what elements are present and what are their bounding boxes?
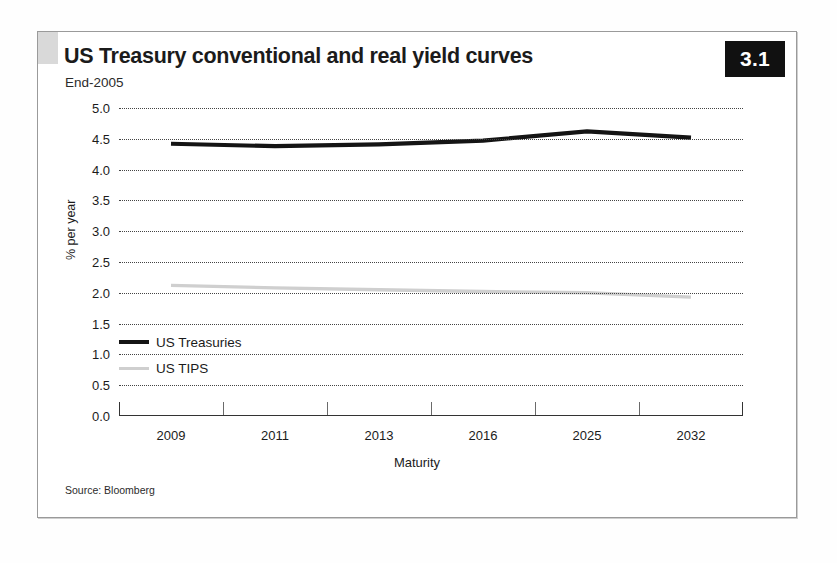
x-axis-tick [431, 402, 432, 416]
x-axis-tick [639, 402, 640, 416]
y-axis-tick-label: 0.5 [92, 378, 110, 393]
x-axis-tick-label: 2009 [157, 428, 186, 443]
x-axis-line [119, 415, 743, 416]
x-axis-tick-label: 2013 [365, 428, 394, 443]
y-axis-tick-label: 3.0 [92, 224, 110, 239]
gridline [119, 293, 743, 294]
y-axis-tick-label: 4.5 [92, 131, 110, 146]
y-axis-tick-label: 4.0 [92, 162, 110, 177]
series-line [171, 285, 691, 297]
chart-subtitle: End-2005 [65, 75, 124, 90]
x-axis-tick-label: 2016 [469, 428, 498, 443]
x-axis-tick-label: 2025 [573, 428, 602, 443]
x-axis-tick [535, 402, 536, 416]
legend-label: US TIPS [156, 361, 208, 376]
gridline [119, 324, 743, 325]
y-axis-tick-label: 2.0 [92, 285, 110, 300]
y-axis-tick-label: 2.5 [92, 255, 110, 270]
legend-swatch-icon [119, 340, 149, 344]
legend-item[interactable]: US Treasuries [119, 329, 242, 355]
gridline [119, 108, 743, 109]
gridline [119, 262, 743, 263]
y-axis-line [119, 402, 120, 416]
source-note: Source: Bloomberg [65, 484, 155, 496]
y-axis-tick-label: 1.5 [92, 316, 110, 331]
y-axis-tick-label: 5.0 [92, 101, 110, 116]
y-axis-tick-label: 3.5 [92, 193, 110, 208]
y-axis-tick-label: 0.0 [92, 409, 110, 424]
gridline [119, 385, 743, 386]
chart-number-badge: 3.1 [725, 41, 785, 77]
x-axis-tick [223, 402, 224, 416]
chart-legend: US TreasuriesUS TIPS [119, 329, 242, 381]
x-axis-tick-label: 2032 [677, 428, 706, 443]
y-axis-line-right [742, 402, 743, 416]
x-axis-label: Maturity [38, 455, 796, 470]
accent-block [38, 32, 58, 64]
chart-page: US Treasury conventional and real yield … [0, 0, 837, 563]
gridline [119, 200, 743, 201]
y-axis-tick-label: 1.0 [92, 347, 110, 362]
y-axis-label: % per year [64, 200, 78, 260]
gridline [119, 139, 743, 140]
legend-swatch-icon [119, 367, 149, 370]
x-axis-tick [327, 402, 328, 416]
gridline [119, 170, 743, 171]
page-title: US Treasury conventional and real yield … [64, 44, 533, 69]
legend-label: US Treasuries [156, 335, 242, 350]
chart-card: US Treasury conventional and real yield … [37, 31, 797, 518]
legend-item[interactable]: US TIPS [119, 355, 242, 381]
gridline [119, 231, 743, 232]
x-axis-tick-label: 2011 [261, 428, 289, 443]
